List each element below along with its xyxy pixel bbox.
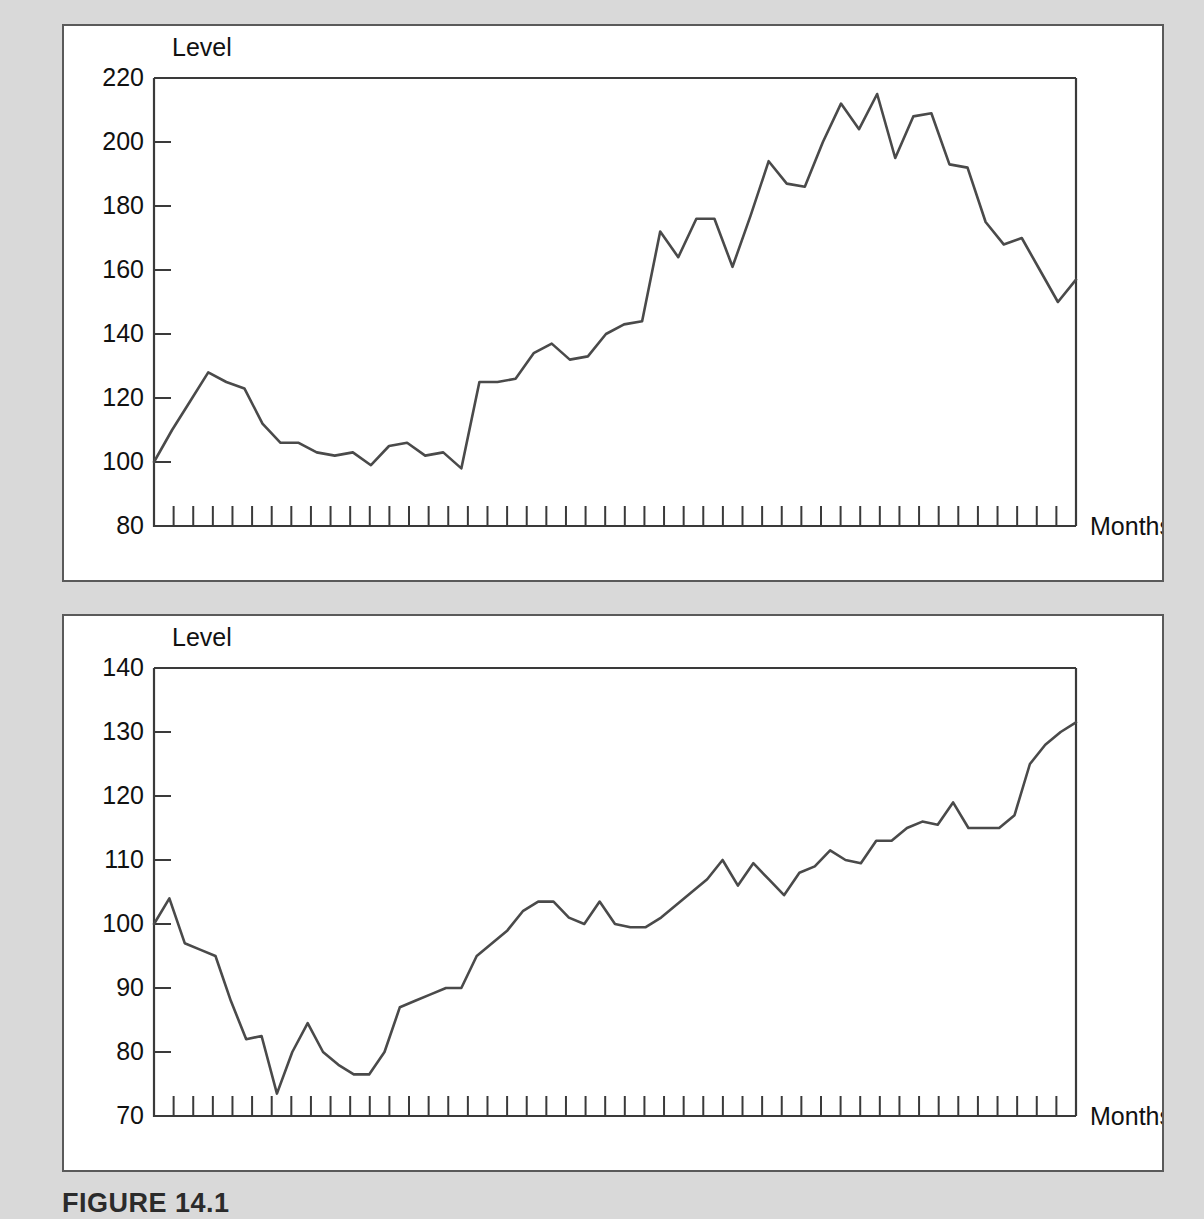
y-tick-label: 90 <box>116 973 144 1001</box>
y-axis-title: Level <box>172 623 232 651</box>
y-tick-label: 180 <box>102 191 144 219</box>
y-axis-title: Level <box>172 33 232 61</box>
data-series-line <box>154 94 1076 468</box>
axis-lines <box>154 668 1076 1116</box>
line-chart-bottom: Level708090100110120130140Months <box>64 616 1162 1170</box>
axis-lines <box>154 78 1076 526</box>
figure-caption: FIGURE 14.1 <box>62 1188 230 1219</box>
y-tick-label: 220 <box>102 63 144 91</box>
chart-panel-top: Level80100120140160180200220Months <box>62 24 1164 582</box>
chart-panel-bottom: Level708090100110120130140Months <box>62 614 1164 1172</box>
y-tick-label: 100 <box>102 909 144 937</box>
x-axis-title: Months <box>1090 1102 1162 1130</box>
y-tick-label: 80 <box>116 1037 144 1065</box>
x-axis-title: Months <box>1090 512 1162 540</box>
y-tick-label: 200 <box>102 127 144 155</box>
y-tick-label: 140 <box>102 653 144 681</box>
y-tick-label: 70 <box>116 1101 144 1129</box>
y-tick-label: 120 <box>102 781 144 809</box>
y-tick-label: 130 <box>102 717 144 745</box>
data-series-line <box>154 722 1076 1093</box>
y-tick-label: 80 <box>116 511 144 539</box>
y-tick-label: 160 <box>102 255 144 283</box>
line-chart-top: Level80100120140160180200220Months <box>64 26 1162 580</box>
y-tick-label: 140 <box>102 319 144 347</box>
y-tick-label: 120 <box>102 383 144 411</box>
y-tick-label: 110 <box>104 845 144 873</box>
y-tick-label: 100 <box>102 447 144 475</box>
